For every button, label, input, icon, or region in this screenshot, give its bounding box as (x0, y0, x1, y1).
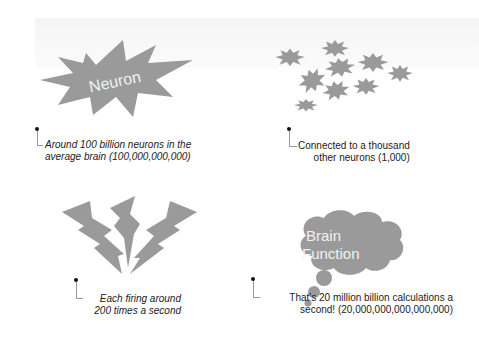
leader-line (289, 131, 297, 147)
caption-connections: Connected to a thousand other neurons (1… (298, 140, 410, 164)
caption-neuron: Around 100 billion neurons in the averag… (45, 139, 191, 163)
neuron-cluster-icon (270, 35, 420, 115)
neuron-starburst-icon: Neuron (38, 35, 198, 125)
lightning-bolts-icon (62, 196, 197, 271)
caption-brain-function: That's 20 million billion calculations a… (259, 292, 453, 316)
function-label: Function (302, 245, 360, 262)
leader-line (37, 131, 43, 146)
caption-firing: Each firing around 200 times a second (77, 293, 181, 317)
brain-label: Brain (306, 227, 341, 244)
